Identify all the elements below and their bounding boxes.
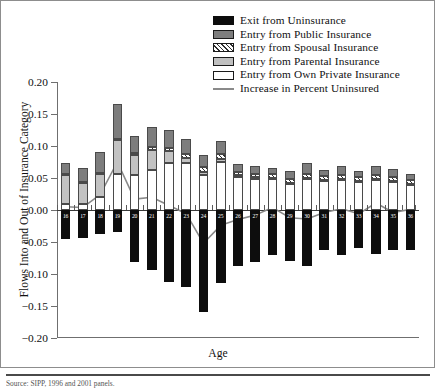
bar-segment (216, 210, 226, 283)
bar-segment (268, 174, 278, 178)
bar-segment (302, 163, 312, 174)
x-axis-tick (74, 205, 75, 210)
bar-segment (406, 184, 416, 210)
bar-segment (268, 178, 278, 180)
bar-segment (113, 174, 123, 210)
bar-segment (199, 172, 209, 176)
y-axis-tick-label: 0.10 (28, 140, 48, 152)
y-axis-tick (51, 338, 57, 339)
bar-segment (181, 154, 191, 158)
x-axis-tick-label: 22 (166, 213, 171, 219)
bar-segment (250, 174, 260, 178)
bar-segment (78, 182, 88, 204)
legend-swatch-own-icon (213, 71, 234, 80)
x-axis-tick-label: 27 (253, 213, 258, 219)
bar-column-age-30 (302, 82, 312, 338)
bar-column-age-34 (371, 82, 381, 338)
y-axis-tick (51, 114, 57, 115)
bar-segment (113, 139, 123, 141)
legend-item-label: Entry from Public Insurance (240, 28, 371, 42)
bar-segment (164, 210, 174, 282)
x-axis-tick (264, 205, 265, 210)
y-axis-tick (51, 146, 57, 147)
bar-segment (78, 168, 88, 181)
bar-segment (181, 139, 191, 154)
y-axis-tick (51, 178, 57, 179)
bar-segment (95, 152, 105, 172)
bar-segment (181, 163, 191, 210)
bar-segment (337, 166, 347, 176)
bar-segment (268, 179, 278, 210)
bar-segment (285, 184, 295, 210)
y-axis-tick-label: −0.05 (22, 236, 48, 248)
figure-container: Exit from UninsuranceEntry from Public I… (0, 0, 436, 388)
bar-segment (130, 153, 140, 155)
y-axis-tick (51, 82, 57, 83)
x-axis-tick-label: 28 (270, 213, 275, 219)
bar-segment (388, 181, 398, 183)
x-axis-tick (212, 205, 213, 210)
bar-segment (285, 179, 295, 183)
bar-segment (147, 127, 157, 147)
bar-segment (199, 167, 209, 171)
x-axis-tick (385, 205, 386, 210)
bar-segment (319, 181, 329, 210)
x-axis-tick (178, 205, 179, 210)
bar-segment (250, 166, 260, 173)
y-axis-tick-label: −0.20 (22, 332, 48, 344)
x-axis-tick-label: 25 (218, 213, 223, 219)
x-axis-tick-label: 30 (304, 213, 309, 219)
bar-segment (130, 136, 140, 153)
source-note: Source: SIPP, 1996 and 2001 panels. (6, 379, 115, 388)
x-axis-tick (160, 205, 161, 210)
y-axis-tick-label: −0.10 (22, 268, 48, 280)
legend-swatch-public-icon (213, 30, 234, 39)
bar-segment (95, 173, 105, 175)
legend-swatch-spousal-icon (213, 43, 234, 52)
bar-segment (371, 179, 381, 210)
bar-segment (302, 179, 312, 210)
bar-segment (164, 148, 174, 151)
bar-segment (371, 166, 381, 174)
bar-segment (354, 181, 364, 183)
bar-segment (233, 175, 243, 177)
bar-segment (78, 182, 88, 184)
x-axis-tick (143, 205, 144, 210)
x-axis-tick (109, 205, 110, 210)
bar-segment (285, 183, 295, 185)
x-axis-tick (415, 205, 416, 210)
x-axis-tick (281, 205, 282, 210)
bar-segment (233, 164, 243, 172)
y-axis-tick-label: 0.00 (28, 204, 48, 216)
bar-column-age-33 (354, 82, 364, 338)
x-axis-tick-label: 21 (149, 213, 154, 219)
bar-column-age-35 (388, 82, 398, 338)
bar-segment (216, 154, 226, 158)
x-axis-tick (298, 205, 299, 210)
x-axis-tick (316, 205, 317, 210)
x-axis-tick-label: 34 (373, 213, 378, 219)
x-axis-tick-label: 20 (132, 213, 137, 219)
bar-column-age-29 (285, 82, 295, 338)
bar-segment (354, 181, 364, 210)
bar-segment (268, 168, 278, 174)
bar-segment (113, 140, 123, 173)
bar-segment (130, 175, 140, 210)
bar-segment (302, 178, 312, 180)
bar-column-age-22 (164, 82, 174, 338)
bar-segment (354, 171, 364, 177)
y-axis-tick-label: 0.15 (28, 108, 48, 120)
x-axis-tick-label: 18 (97, 213, 102, 219)
bar-segment (233, 172, 243, 176)
y-axis-tick (51, 242, 57, 243)
footer-divider (6, 374, 430, 376)
x-axis-tick-label: 23 (184, 213, 189, 219)
bar-segment (181, 210, 191, 287)
bar-column-age-31 (319, 82, 329, 338)
legend-item-label: Entry from Spousal Insurance (240, 41, 378, 55)
bar-segment (319, 176, 329, 180)
bar-segment (61, 174, 71, 203)
plot-area: 0.200.150.100.050.00−0.05−0.10−0.15−0.20… (57, 82, 419, 338)
bar-segment (164, 163, 174, 210)
bar-segment (233, 177, 243, 210)
